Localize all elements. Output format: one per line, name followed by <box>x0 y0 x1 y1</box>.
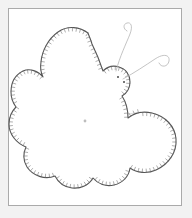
butterfly-figure <box>0 0 192 218</box>
antenna-upper <box>116 23 131 71</box>
butterfly-body-outline <box>9 28 176 189</box>
antenna-lower <box>123 55 169 79</box>
seam-convergence-point <box>84 120 87 123</box>
eye-left <box>117 76 119 78</box>
eye-right <box>123 81 125 83</box>
illustration-canvas <box>0 0 192 218</box>
